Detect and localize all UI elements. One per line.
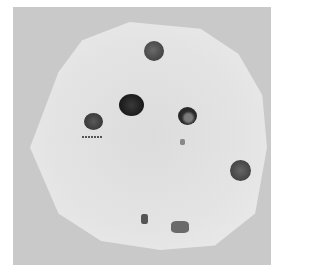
spot-right-center bbox=[178, 107, 197, 125]
spot-far-right bbox=[230, 160, 251, 181]
debris-3 bbox=[180, 139, 185, 145]
spot-top bbox=[144, 41, 164, 61]
scale-mark bbox=[82, 136, 103, 138]
debris-2 bbox=[171, 221, 189, 233]
debris-1 bbox=[141, 214, 148, 224]
spot-left bbox=[84, 113, 103, 130]
spot-center bbox=[119, 94, 144, 116]
